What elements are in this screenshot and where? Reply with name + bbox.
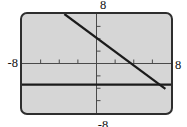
window-xmax-label: 8 <box>175 59 187 72</box>
window-xmin-label: -8 <box>0 57 18 70</box>
graph-screen <box>20 12 173 115</box>
decreasing-line <box>64 14 165 89</box>
window-ymin-label: -8 <box>90 119 116 127</box>
window-ymax-label: 8 <box>90 0 116 12</box>
calculator-graph-figure: 8 -8 8 -8 <box>0 0 187 127</box>
plot-svg <box>22 14 171 113</box>
